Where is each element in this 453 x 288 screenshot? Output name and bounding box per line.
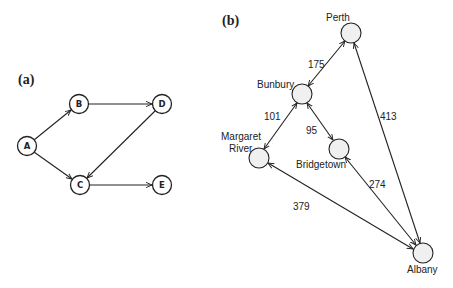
edge-margaret-river-albany [268,163,413,249]
panel-a-label: (a) [18,72,35,88]
node-B: B [70,95,89,114]
node-D: D [153,95,172,114]
node-circle [292,84,312,104]
weight-bunbury-bridgetown: 95 [306,125,318,136]
node-A: A [18,137,37,156]
weight-bridgetown-albany: 274 [369,179,386,190]
edge-a-c [34,152,72,179]
node-label-line-1: Margaret [221,131,261,142]
edge-d-c [87,111,155,178]
panel-b: (b) 175 101 95 413 274 379 Perth Bunbury [221,12,438,275]
node-label: C [77,180,83,190]
node-label: D [158,99,165,109]
node-E: E [153,176,172,195]
panel-a: (a) A B C D E [18,72,172,195]
edge-bunbury-margaret-river [264,103,297,149]
node-label: Perth [326,12,350,23]
panel-b-label: (b) [222,13,239,29]
weight-margaret-river-albany: 379 [293,201,310,212]
weight-bunbury-margaret-river: 101 [264,111,281,122]
node-circle [413,243,433,263]
node-label: A [24,141,31,151]
node-bunbury: Bunbury [257,79,312,104]
edge-bridgetown-albany [345,157,416,245]
node-label: Albany [407,264,438,275]
node-margaret-river: Margaret River [221,131,269,168]
node-label: Bridgetown [296,159,346,170]
node-label: Bunbury [257,79,294,90]
weight-perth-bunbury: 175 [308,59,325,70]
node-circle [341,23,361,43]
panel-a-edges [34,104,155,185]
node-label: B [76,99,82,109]
edge-a-b [34,110,71,140]
node-label-line-2: River [229,143,253,154]
node-C: C [71,176,90,195]
node-bridgetown: Bridgetown [296,139,349,170]
node-label: E [159,180,165,190]
edge-perth-albany [354,43,420,243]
weight-perth-albany: 413 [380,111,397,122]
node-circle [329,139,349,159]
figure-canvas: (a) A B C D E (b) [0,0,453,288]
node-perth: Perth [326,12,361,43]
